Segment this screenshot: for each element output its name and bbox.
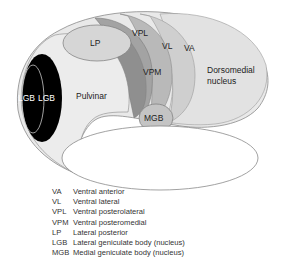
legend-row-vl: VL Ventral lateral (52, 197, 185, 207)
label-lp: LP (90, 38, 101, 48)
legend-text: Lateral posterior (73, 228, 128, 238)
legend-text: Ventral posterolateral (73, 207, 145, 217)
legend-abbr: LP (52, 228, 73, 238)
label-vl: VL (162, 41, 173, 51)
legend-row-vpl: VPL Ventral posterolateral (52, 207, 185, 217)
legend-row-vpm: VPM Ventral posteromedial (52, 218, 185, 228)
legend-text: Ventral posteromedial (73, 218, 146, 228)
legend: VA Ventral anterior VL Ventral lateral V… (52, 187, 185, 258)
label-vpl: VPL (132, 28, 148, 38)
legend-abbr: VL (52, 197, 73, 207)
label-pulvinar: Pulvinar (76, 91, 107, 101)
legend-text: Ventral anterior (73, 187, 125, 197)
label-dorsomedial-2: nucleus (207, 76, 236, 86)
legend-abbr: VPM (52, 218, 73, 228)
label-va: VA (184, 43, 195, 53)
legend-text: Ventral lateral (73, 197, 119, 207)
legend-abbr: LGB (52, 238, 73, 248)
label-lgb-inner: LGB (18, 93, 35, 103)
label-vpm: VPM (143, 67, 161, 77)
legend-text: Medial geniculate body (nucleus) (73, 248, 184, 258)
label-mgb: MGB (144, 113, 164, 123)
legend-row-mgb: MGB Medial geniculate body (nucleus) (52, 248, 185, 258)
legend-text: Lateral geniculate body (nucleus) (73, 238, 185, 248)
legend-abbr: VPL (52, 207, 73, 217)
label-lgb-outer: LGB (38, 93, 55, 103)
legend-abbr: MGB (52, 248, 73, 258)
legend-row-va: VA Ventral anterior (52, 187, 185, 197)
label-dorsomedial-1: Dorsomedial (207, 65, 255, 75)
legend-row-lgb: LGB Lateral geniculate body (nucleus) (52, 238, 185, 248)
legend-abbr: VA (52, 187, 73, 197)
legend-row-lp: LP Lateral posterior (52, 228, 185, 238)
lower-white-region (62, 126, 258, 190)
